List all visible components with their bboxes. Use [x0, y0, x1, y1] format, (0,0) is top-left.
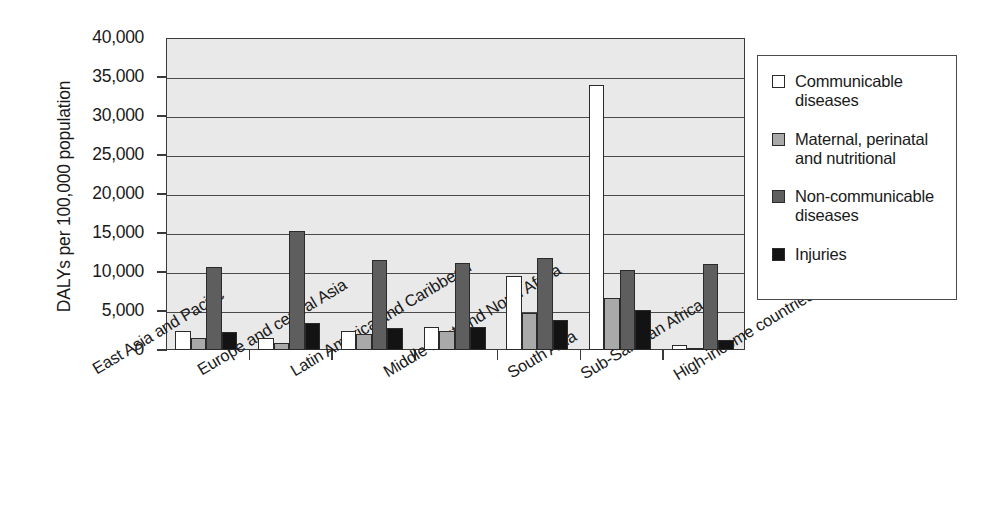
- square-swatch-black-icon: [772, 248, 785, 261]
- legend-item-label: Injuries: [795, 245, 847, 264]
- bar: [553, 320, 569, 350]
- bar: [305, 323, 321, 350]
- y-tick-label: 10,000: [14, 263, 144, 281]
- bar: [589, 85, 605, 350]
- bar: [620, 270, 636, 350]
- bar: [703, 264, 719, 350]
- bar: [424, 327, 440, 350]
- bar: [687, 348, 703, 350]
- bar: [604, 298, 620, 350]
- y-tick-label: 35,000: [14, 68, 144, 86]
- legend-item: Maternal, perinatal and nutritional: [772, 130, 946, 169]
- bar: [258, 338, 274, 350]
- bar: [718, 340, 734, 350]
- bar: [455, 263, 471, 350]
- bar: [206, 267, 222, 350]
- bar: [175, 331, 191, 351]
- bar: [341, 331, 357, 351]
- bar: [274, 343, 290, 350]
- bar: [506, 276, 522, 350]
- bars-layer: [166, 38, 745, 350]
- y-tick-label: 20,000: [14, 185, 144, 203]
- square-swatch-light-gray-icon: [772, 133, 785, 146]
- y-tick-label: 25,000: [14, 146, 144, 164]
- y-tick-label: 15,000: [14, 224, 144, 242]
- y-tick-label: 40,000: [14, 29, 144, 47]
- bar: [222, 332, 238, 350]
- bar: [672, 345, 688, 350]
- bar-chart-figure: DALYs per 100,000 population 40,00035,00…: [0, 0, 997, 526]
- bar: [289, 231, 305, 350]
- bar: [439, 331, 455, 350]
- bar: [356, 334, 372, 350]
- legend-item-label: Non-communicable diseases: [795, 187, 946, 226]
- y-tick-label: 30,000: [14, 107, 144, 125]
- bar: [387, 328, 403, 350]
- bar: [470, 327, 486, 350]
- x-axis-labels: East Asia and PacificEurope and central …: [0, 356, 780, 526]
- legend-item: Non-communicable diseases: [772, 187, 946, 226]
- legend-item: Injuries: [772, 245, 946, 264]
- bar: [635, 310, 651, 350]
- bar: [191, 338, 207, 350]
- bar: [372, 260, 388, 350]
- legend-item-label: Communicable diseases: [795, 72, 946, 111]
- y-tick-label: 5,000: [14, 302, 144, 320]
- legend-item-label: Maternal, perinatal and nutritional: [795, 130, 946, 169]
- square-swatch-white-icon: [772, 75, 785, 88]
- bar: [522, 313, 538, 350]
- square-swatch-dark-gray-icon: [772, 190, 785, 203]
- bar: [537, 258, 553, 350]
- bar-group: [589, 38, 651, 350]
- legend-item: Communicable diseases: [772, 72, 946, 111]
- bar-group: [424, 38, 486, 350]
- chart-legend: Communicable diseasesMaternal, perinatal…: [757, 55, 957, 300]
- bar-group: [506, 38, 568, 350]
